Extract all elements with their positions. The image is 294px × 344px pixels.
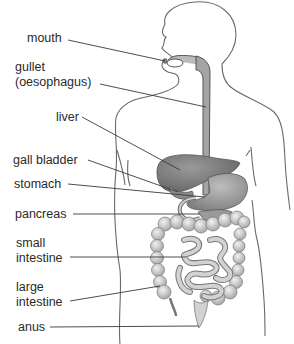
large-intestine — [151, 211, 251, 305]
rectum — [194, 300, 208, 328]
label-large-intestine-line2: intestine — [16, 295, 63, 310]
label-mouth: mouth — [27, 31, 62, 46]
label-gullet-line2: (oesophagus) — [15, 75, 91, 90]
small-intestine — [178, 239, 230, 297]
label-stomach: stomach — [14, 177, 61, 192]
label-small-intestine: small intestine — [16, 236, 63, 266]
label-large-intestine: large intestine — [16, 280, 63, 310]
label-small-intestine-line2: intestine — [16, 251, 63, 266]
leader-mouth — [68, 40, 165, 61]
label-large-intestine-line1: large — [16, 280, 63, 295]
label-small-intestine-line1: small — [16, 236, 63, 251]
leader-gullet — [100, 84, 206, 107]
leader-large-intestine — [70, 286, 160, 301]
leader-anus — [50, 326, 199, 327]
digestive-system-diagram: mouth gullet (oesophagus) liver gall bla… — [0, 0, 294, 344]
label-gullet: gullet (oesophagus) — [15, 60, 91, 90]
label-anus: anus — [18, 320, 45, 335]
label-pancreas: pancreas — [15, 207, 66, 222]
label-gullet-line1: gullet — [15, 60, 91, 75]
leader-liver — [82, 117, 180, 170]
label-gall-bladder: gall bladder — [13, 153, 78, 168]
label-liver: liver — [56, 110, 79, 125]
appendix — [170, 298, 176, 316]
